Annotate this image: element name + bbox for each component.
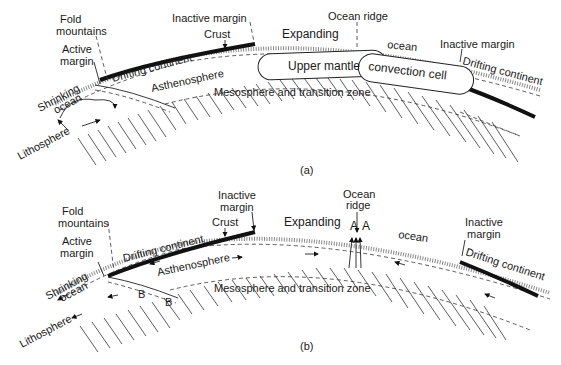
label-inactive-margin-right-a: Inactive margin [440,38,515,50]
label-ocean-b: ocean [398,228,429,244]
label-crust-a: Crust [204,28,230,40]
label-expanding-b: Expanding [284,215,341,229]
label-ridge-a-right: A [362,219,370,233]
svg-text:margin: margin [60,55,94,67]
plate-tectonics-diagram: Fold mountains Active margin Inactive ma… [0,0,561,365]
label-slab-b-1: B [138,288,145,300]
label-slab-b-2: B [165,296,172,308]
label-upper-mantle: Upper mantle [288,59,360,73]
caption-a: (a) [300,164,313,176]
label-mesosphere-a: Mesosphere and transition zone [214,86,371,98]
caption-b: (b) [300,340,313,352]
label-ocean-ridge-a: Ocean ridge [328,10,388,22]
label-fold-mountains-a: Fold [60,13,81,25]
label-fold-mountains-b: Fold [62,205,83,217]
label-expanding-a: Expanding [282,27,339,41]
label-active-margin-a: Active [62,43,92,55]
svg-text:mountains: mountains [56,25,107,37]
label-lithosphere-a: Lithosphere [15,124,71,162]
label-inactive-margin-left-b: Inactive [218,189,256,201]
svg-text:mountains: mountains [58,217,109,229]
label-inactive-margin-left-a: Inactive margin [172,12,247,24]
label-inactive-margin-right-b: Inactive [465,216,503,228]
svg-text:ridge: ridge [346,199,370,211]
label-ocean-a: ocean [387,38,418,53]
label-crust-b: Crust [212,216,238,228]
label-mesosphere-b: Mesosphere and transition zone [214,282,371,294]
label-drifting-continent-right-b: Drifting continent [464,245,546,282]
panel-b: Fold mountains Active margin Inactive ma… [17,188,550,352]
svg-text:margin: margin [220,201,254,213]
label-lithosphere-b: Lithosphere [17,312,73,350]
panel-a: Fold mountains Active margin Inactive ma… [15,10,544,176]
mesosphere-hatch-b [80,268,506,352]
svg-text:margin: margin [60,247,94,259]
svg-text:margin: margin [467,228,501,240]
label-active-margin-b: Active [62,235,92,247]
label-ridge-a-left: A [350,219,358,233]
